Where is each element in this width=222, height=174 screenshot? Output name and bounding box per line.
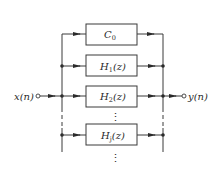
ellipsis-icon: ⋮: [110, 152, 121, 165]
output-terminal-icon: [182, 94, 186, 98]
junction-dot-icon: [161, 133, 165, 137]
output-label: y(n): [187, 91, 208, 102]
branch-hj: Hj(z): [60, 124, 165, 145]
junction-dot-icon: [161, 94, 165, 98]
input-terminal-icon: [36, 94, 40, 98]
junction-dot-icon: [161, 64, 165, 68]
branch-c0: C0: [62, 24, 163, 45]
branch-h2: H2(z): [60, 86, 165, 107]
input-label: x(n): [14, 91, 34, 102]
ellipsis-icon: ⋮: [110, 111, 121, 124]
output-node: y(n): [163, 91, 208, 102]
filter-bank-diagram: x(n) y(n) C0 H1(z) H2(z): [0, 0, 222, 174]
input-node: x(n): [14, 91, 62, 102]
branch-h1: H1(z): [60, 55, 165, 76]
